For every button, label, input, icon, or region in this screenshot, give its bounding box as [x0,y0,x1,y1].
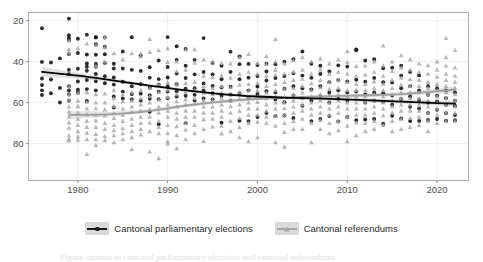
svg-text:2010: 2010 [337,184,358,195]
svg-text:1990: 1990 [157,184,178,195]
legend-label-referendums: Cantonal referendums [304,224,398,234]
cut-off-caption-strip: Figure turnout in cantonal parliamentary… [0,252,483,262]
svg-text:60: 60 [13,97,24,108]
svg-text:2000: 2000 [247,184,268,195]
legend-label-elections: Cantonal parliamentary elections [114,224,252,234]
legend-key-referendums [275,222,299,235]
legend-entry-referendums[interactable]: Cantonal referendums [275,222,398,235]
legend-key-elections [85,222,109,235]
cut-off-caption-text: Figure turnout in cantonal parliamentary… [60,252,335,262]
figure-container: 8060402019801990200020102020 Cantonal pa… [0,0,483,262]
svg-text:2020: 2020 [427,184,448,195]
svg-text:80: 80 [13,138,24,149]
svg-text:40: 40 [13,56,24,67]
svg-text:1980: 1980 [67,184,88,195]
svg-text:20: 20 [13,15,24,26]
chart-legend: Cantonal parliamentary elections Cantona… [0,222,483,235]
legend-entry-elections[interactable]: Cantonal parliamentary elections [85,222,252,235]
